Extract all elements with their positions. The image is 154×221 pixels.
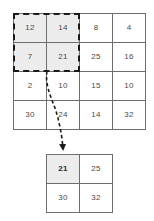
input-cell-2-3: 10 [113,72,146,101]
input-cell-0-1: 14 [47,14,80,43]
input-cell-2-0: 2 [14,72,47,101]
input-cell-0-0: 12 [14,14,47,43]
output-cell-1-1: 32 [80,184,113,213]
input-cell-3-1: 24 [47,101,80,130]
input-cell-3-2: 14 [80,101,113,130]
input-cell-2-1: 10 [47,72,80,101]
output-cell-0-1: 25 [80,155,113,184]
input-cell-3-3: 32 [113,101,146,130]
diagram-canvas: 1214847212516210151030241432 21253032 [0,0,154,221]
input-cell-3-0: 30 [14,101,47,130]
input-cell-1-1: 21 [47,43,80,72]
input-cell-1-3: 16 [113,43,146,72]
input-cell-1-0: 7 [14,43,47,72]
input-feature-map-grid: 1214847212516210151030241432 [13,13,146,130]
output-cell-0-0: 21 [47,155,80,184]
input-cell-0-2: 8 [80,14,113,43]
input-cell-0-3: 4 [113,14,146,43]
output-cell-1-0: 30 [47,184,80,213]
input-cell-1-2: 25 [80,43,113,72]
input-cell-2-2: 15 [80,72,113,101]
output-feature-map-grid: 21253032 [46,154,113,213]
